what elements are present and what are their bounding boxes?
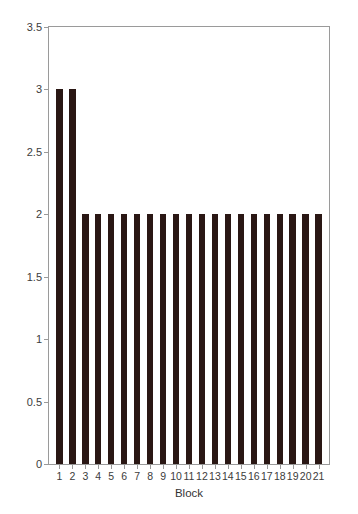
x-tick-label: 4 [95,471,101,482]
y-tick-mark [44,152,49,153]
bar [277,214,283,464]
x-tick-label: 6 [121,471,127,482]
bar [173,214,179,464]
bar [82,214,88,464]
x-tick-label: 10 [170,471,182,482]
x-tick-label: 15 [235,471,247,482]
x-tick-label: 20 [300,471,312,482]
y-tick-label: 2 [36,209,42,220]
x-tick-label: 21 [313,471,325,482]
x-tick-mark [98,464,99,469]
x-tick-label: 3 [82,471,88,482]
x-tick-mark [228,464,229,469]
plot-area: 00.511.522.533.5 12345678910111213141516… [49,27,329,464]
x-tick-label: 1 [56,471,62,482]
bar [264,214,270,464]
x-tick-label: 17 [261,471,273,482]
y-tick-label: 3.5 [27,22,42,33]
x-tick-label: 9 [160,471,166,482]
y-tick-mark [44,89,49,90]
x-tick-label: 14 [222,471,234,482]
x-tick-label: 12 [196,471,208,482]
bar [108,214,114,464]
plot-frame: 00.511.522.533.5 12345678910111213141516… [48,26,330,465]
x-tick-mark [241,464,242,469]
x-tick-mark [72,464,73,469]
x-tick-mark [111,464,112,469]
x-tick-mark [267,464,268,469]
x-tick-mark [137,464,138,469]
y-tick-mark [44,277,49,278]
x-axis-title: Block [48,487,330,499]
bar [95,214,101,464]
x-tick-mark [215,464,216,469]
x-tick-mark [124,464,125,469]
x-tick-mark [319,464,320,469]
x-tick-label: 13 [209,471,221,482]
y-tick-label: 3 [36,84,42,95]
bar [199,214,205,464]
bar [69,89,75,464]
y-tick-label: 0 [36,459,42,470]
bar-chart-figure: Median zero crossings 00.511.522.533.5 1… [0,0,358,514]
bar [225,214,231,464]
bar [160,214,166,464]
x-tick-label: 18 [274,471,286,482]
x-tick-mark [59,464,60,469]
y-tick-mark [44,339,49,340]
y-tick-label: 1 [36,334,42,345]
y-tick-label: 0.5 [27,396,42,407]
x-tick-mark [176,464,177,469]
y-tick-label: 1.5 [27,271,42,282]
bar [251,214,257,464]
y-tick-mark [44,464,49,465]
x-tick-mark [189,464,190,469]
bar [121,214,127,464]
bar [212,214,218,464]
x-tick-label: 7 [134,471,140,482]
y-tick-mark [44,214,49,215]
x-tick-mark [280,464,281,469]
x-tick-mark [306,464,307,469]
bar [147,214,153,464]
bar [238,214,244,464]
bar [315,214,321,464]
x-tick-mark [150,464,151,469]
x-tick-mark [254,464,255,469]
x-tick-label: 5 [108,471,114,482]
x-tick-mark [202,464,203,469]
x-tick-mark [163,464,164,469]
y-tick-mark [44,402,49,403]
x-tick-label: 2 [69,471,75,482]
bar [302,214,308,464]
bar [56,89,62,464]
x-tick-label: 16 [248,471,260,482]
x-tick-label: 19 [287,471,299,482]
x-tick-label: 11 [184,471,195,482]
bar [186,214,192,464]
y-tick-label: 2.5 [27,146,42,157]
x-tick-mark [85,464,86,469]
bar [134,214,140,464]
bar [289,214,295,464]
y-tick-mark [44,27,49,28]
x-tick-label: 8 [147,471,153,482]
x-tick-mark [293,464,294,469]
